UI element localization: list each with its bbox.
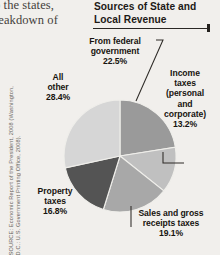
pie-label-value: 13.2% — [152, 119, 218, 129]
pie-label-line: (personal — [152, 88, 218, 98]
pie-label-sales-receipts-taxes: Sales and gross receipts taxes 19.1% — [124, 208, 218, 239]
pie-label-line: corporate) — [152, 109, 218, 119]
pie-label-line: Income — [152, 68, 218, 78]
pie-label-value: 22.5% — [74, 56, 156, 66]
pie-label-value: 19.1% — [124, 228, 218, 238]
pie-label-income-taxes: Income taxes (personal and corporate) 13… — [152, 68, 218, 129]
pie-label-line: All — [32, 72, 84, 82]
pie-label-line: taxes — [22, 196, 88, 206]
pie-label-line: taxes — [152, 78, 218, 88]
pie-label-line: From federal — [74, 36, 156, 46]
pie-label-federal-government: From federal government 22.5% — [74, 36, 156, 67]
pie-label-line: receipts taxes — [124, 218, 218, 228]
pie-label-property-taxes: Property taxes 16.8% — [22, 186, 88, 217]
pie-slice — [64, 100, 120, 168]
pie-label-all-other: All other 28.4% — [32, 72, 84, 103]
pie-label-value: 16.8% — [22, 206, 88, 216]
pie-label-line: government — [74, 46, 156, 56]
pie-label-value: 28.4% — [32, 92, 84, 102]
pie-label-line: other — [32, 82, 84, 92]
pie-label-line: Property — [22, 186, 88, 196]
pie-label-line: Sales and gross — [124, 208, 218, 218]
pie-label-line: and — [152, 99, 218, 109]
